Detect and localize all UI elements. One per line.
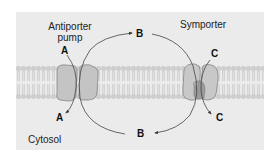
molecule-b-inside: B xyxy=(137,128,144,139)
cytosol-label: Cytosol xyxy=(28,134,61,145)
molecule-a-inside: A xyxy=(56,112,63,123)
antiporter-label-line2: pump xyxy=(44,32,96,43)
symporter-label: Symporter xyxy=(180,19,226,30)
antiporter-pump-label: Antiporter pump xyxy=(44,21,96,43)
lipid-bilayer xyxy=(16,66,264,99)
antiporter-label-line1: Antiporter xyxy=(44,21,96,32)
molecule-a-outside: A xyxy=(61,45,68,56)
molecule-c-outside: C xyxy=(211,48,218,59)
molecule-b-outside: B xyxy=(136,28,143,39)
molecule-c-inside: C xyxy=(216,112,223,123)
